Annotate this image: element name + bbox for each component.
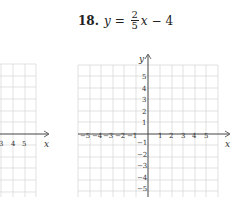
- graph-area: 3 4 5 x y x −5 −4 −3: [0, 0, 246, 216]
- x-tick-neg4: −4: [92, 132, 103, 140]
- y-tick-neg4: −4: [137, 174, 148, 182]
- y-tick-2: 2: [142, 108, 146, 116]
- left-x-tick-5: 5: [22, 140, 26, 148]
- y-tick-neg5: −5: [137, 185, 147, 193]
- left-grid: [0, 64, 36, 197]
- left-x-tick-4: 4: [11, 140, 16, 148]
- y-tick-neg3: −3: [137, 162, 147, 170]
- x-tick-2: 2: [169, 132, 173, 140]
- x-tick-5: 5: [204, 132, 208, 140]
- y-tick-1: 1: [142, 119, 146, 127]
- x-tick-4: 4: [192, 132, 197, 140]
- y-tick-3: 3: [142, 96, 146, 104]
- x-tick-neg2: −2: [115, 132, 125, 140]
- left-x-tick-3: 3: [0, 140, 3, 148]
- y-tick-neg2: −2: [137, 151, 147, 159]
- x-tick-3: 3: [181, 132, 185, 140]
- right-y-axis-label: y: [138, 54, 145, 64]
- x-tick-1: 1: [158, 132, 162, 140]
- x-tick-neg3: −3: [103, 132, 113, 140]
- y-tick-5: 5: [142, 73, 146, 81]
- left-x-axis-label: x: [44, 139, 49, 149]
- x-tick-neg1: −1: [127, 132, 137, 140]
- left-x-axis: [0, 131, 49, 137]
- y-tick-4: 4: [142, 85, 147, 93]
- x-tick-neg5: −5: [80, 132, 90, 140]
- right-x-axis-label: x: [225, 139, 230, 149]
- y-tick-neg1: −1: [137, 139, 147, 147]
